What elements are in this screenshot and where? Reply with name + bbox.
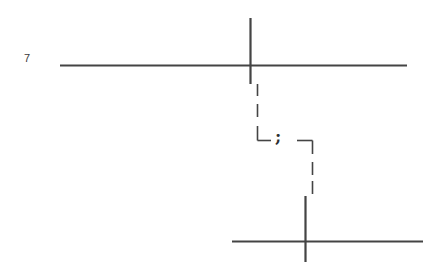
dashed-connector (258, 84, 313, 194)
row-number-label: 7 (24, 51, 30, 65)
bottom-cross (232, 196, 423, 262)
diagram-canvas (0, 0, 446, 278)
top-cross (60, 18, 407, 84)
center-symbol-label: ; (275, 127, 281, 145)
